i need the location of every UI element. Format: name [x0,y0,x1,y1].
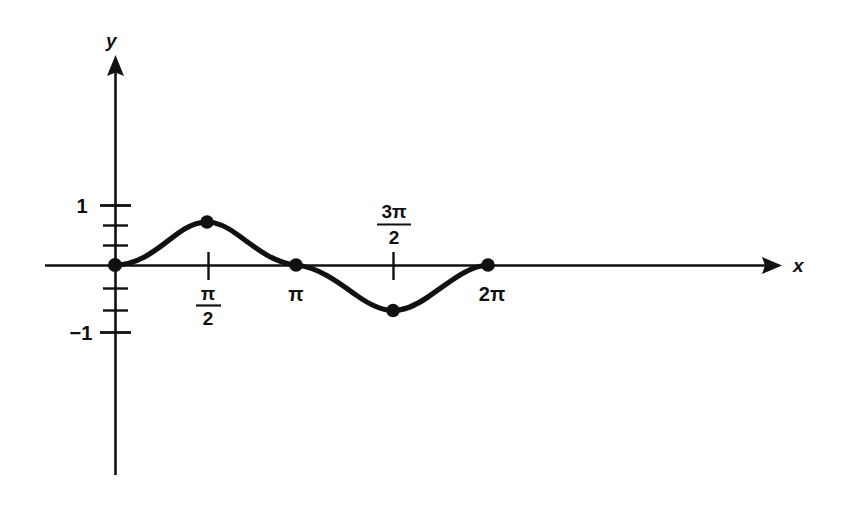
x-axis: x [45,255,805,276]
x-tick-label-pi: π [288,283,303,305]
y-tick-label-neg1: −1 [70,322,93,344]
y-tick-label-1: 1 [76,195,87,217]
y-axis-tick-labels: 1 −1 [70,195,93,344]
x-tick-label-3pi-over-2-denominator: 2 [389,227,400,248]
x-tick-label-pi-over-2-denominator: 2 [203,308,214,329]
curve-point-pi-zero [289,258,303,272]
curve-point-pi-over-2-max [200,215,214,229]
sine-curve-figure: x y 1 −1 [0,0,852,507]
y-axis-label: y [105,30,118,51]
curve-point-origin [108,258,122,272]
curve-point-3pi-over-2-min [386,304,400,318]
curve-point-2pi-zero [481,258,495,272]
x-tick-label-3pi-over-2-numerator: 3π [381,201,407,222]
plot-canvas: x y 1 −1 [0,0,852,507]
x-tick-label-pi-over-2: π 2 [196,283,221,329]
x-axis-label: x [792,255,805,276]
x-tick-label-3pi-over-2: 3π 2 [377,201,411,248]
x-axis-arrowhead [762,257,782,274]
x-tick-label-2pi: 2π [479,283,505,305]
y-axis: y [105,30,124,475]
x-tick-label-pi-over-2-numerator: π [201,283,216,304]
